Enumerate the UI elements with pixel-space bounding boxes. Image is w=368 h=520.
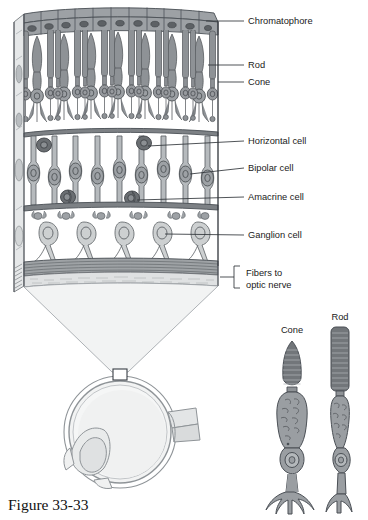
inner-nuclear-layer (27, 136, 214, 205)
callout-label-rod: Rod (248, 60, 265, 70)
rod-cell-body (333, 448, 350, 473)
optic-nerve (168, 408, 200, 442)
cone-detail-figure: Cone (266, 325, 314, 514)
callout-label-fibers-line2: optic nerve (246, 280, 291, 290)
retina-figure: Chromatophore Rod Cone Horizontal cell B… (0, 0, 368, 520)
cone-pedicle (266, 492, 314, 514)
callout-label-chromatophore: Chromatophore (248, 16, 313, 26)
callout-ganglion-cell: Ganglion cell (165, 230, 302, 240)
figure-caption: Figure 33-33 (8, 496, 89, 513)
sample-region-box (113, 369, 127, 380)
block-left-side-face (14, 14, 24, 292)
rod-inner-segment (331, 396, 350, 448)
eye-diagram (64, 369, 200, 489)
callout-fibers-to-optic-nerve: Fibers to optic nerve (220, 266, 291, 290)
magnification-wedge (24, 283, 218, 372)
rod-spherules (23, 97, 215, 122)
callout-chromatophore: Chromatophore (206, 16, 313, 26)
retina-block (14, 7, 218, 292)
callout-label-bipolar-cell: Bipolar cell (248, 163, 293, 173)
callout-label-ganglion-cell: Ganglion cell (248, 230, 302, 240)
rod-detail-figure: Rod (326, 312, 352, 513)
cone-outer-segment (283, 341, 301, 385)
callout-rod: Rod (208, 60, 265, 70)
ganglion-layer (32, 211, 210, 263)
rod-outer-segment (331, 327, 349, 391)
photoreceptor-layer (20, 27, 217, 122)
callout-label-fibers-line1: Fibers to (246, 268, 282, 278)
inner-plexiform-layer (24, 202, 218, 211)
ganglion-cells (39, 222, 210, 262)
callout-cone: Cone (218, 77, 270, 87)
cone-detail-label: Cone (281, 325, 303, 335)
cone-cell-body (280, 448, 304, 474)
rod-detail-label: Rod (331, 312, 348, 322)
callout-label-horizontal-cell: Horizontal cell (248, 136, 306, 146)
rod-spherule (326, 494, 352, 513)
cone-pedicles (27, 98, 209, 122)
cone-inner-segment (277, 392, 307, 448)
figure-canvas: Chromatophore Rod Cone Horizontal cell B… (0, 0, 368, 520)
callout-label-cone: Cone (248, 77, 270, 87)
callout-label-amacrine-cell: Amacrine cell (248, 192, 304, 202)
callout-horizontal-cell: Horizontal cell (148, 136, 306, 146)
